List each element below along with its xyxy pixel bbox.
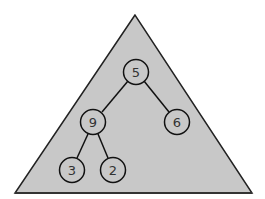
node-label: 6 [173, 115, 181, 130]
tree-node-9: 9 [81, 110, 106, 135]
node-label: 3 [68, 163, 76, 178]
node-label: 9 [89, 115, 97, 130]
tree-node-2: 2 [101, 158, 126, 183]
tree-node-6: 6 [165, 110, 190, 135]
tree-node-5: 5 [124, 60, 149, 85]
node-label: 2 [109, 163, 117, 178]
enclosing-triangle [15, 15, 252, 193]
tree-node-3: 3 [60, 158, 85, 183]
tree-diagram: 5 9 6 3 2 [0, 0, 265, 199]
node-label: 5 [132, 65, 140, 80]
